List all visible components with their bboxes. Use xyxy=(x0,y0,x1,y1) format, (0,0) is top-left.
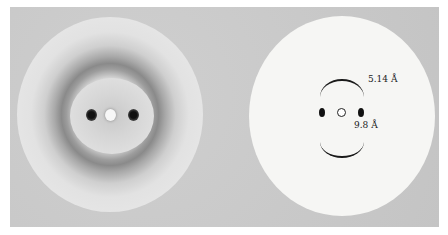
schematic-beam-center xyxy=(337,108,346,117)
schematic-spot-left xyxy=(319,108,325,117)
label-9-8-angstrom: 9.8 Å xyxy=(354,120,378,130)
beam-center xyxy=(105,109,116,121)
schematic-spot-right xyxy=(358,108,364,117)
equatorial-reflection-left xyxy=(86,109,97,121)
equatorial-reflection-right xyxy=(128,109,139,121)
label-5-14-angstrom: 5.14 Å xyxy=(368,74,397,84)
